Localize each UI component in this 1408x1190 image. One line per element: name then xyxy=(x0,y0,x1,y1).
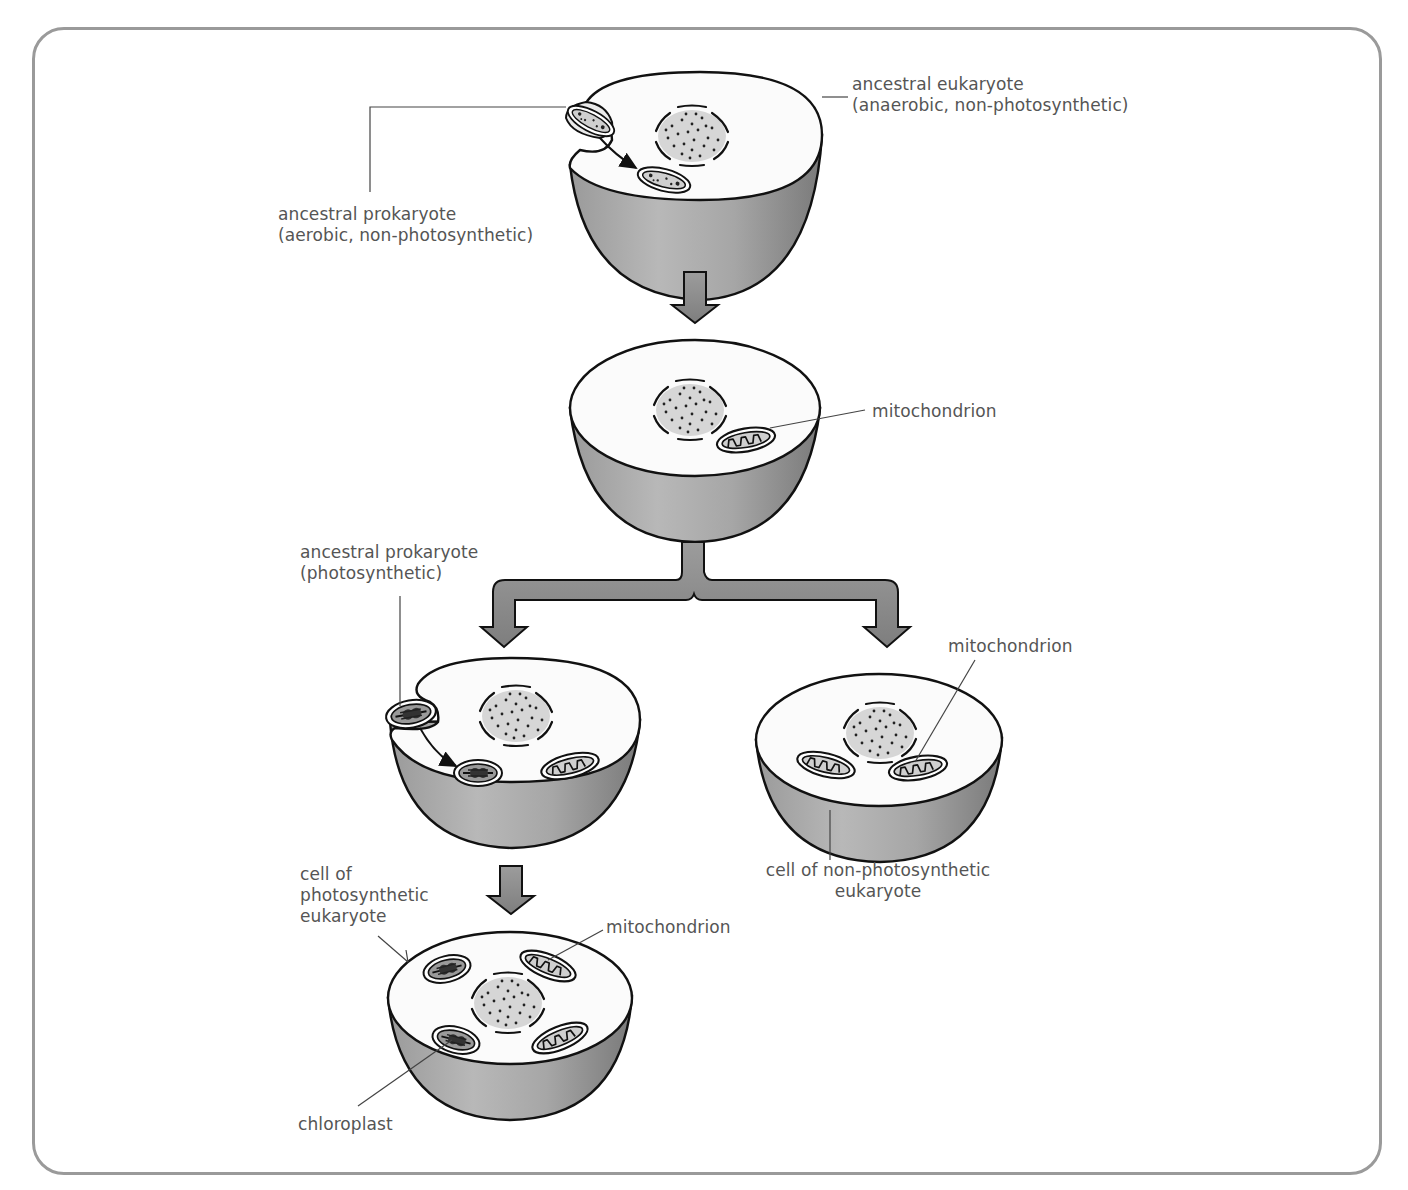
label-ancestral-prokaryote-photosynthetic: ancestral prokaryote (photosynthetic) xyxy=(300,542,478,584)
cell-eukaryote-engulfing-photosynthetic-prokaryote xyxy=(384,658,640,848)
label-line: mitochondrion xyxy=(606,917,731,938)
engulfed-chloroplast xyxy=(454,760,502,786)
label-line: (aerobic, non-photosynthetic) xyxy=(278,225,533,246)
label-mitochondrion-nonphoto: mitochondrion xyxy=(948,636,1073,657)
leader-aerobic-prokaryote xyxy=(370,107,566,192)
cell-non-photosynthetic-eukaryote xyxy=(756,674,1002,862)
label-line: (photosynthetic) xyxy=(300,563,478,584)
label-line: eukaryote xyxy=(758,881,998,902)
label-line: mitochondrion xyxy=(948,636,1073,657)
label-line: chloroplast xyxy=(298,1114,393,1135)
label-line: cell of xyxy=(300,864,429,885)
label-line: cell of non-photosynthetic xyxy=(758,860,998,881)
cell-ancestral-eukaryote xyxy=(563,72,822,300)
label-cell-nonphoto: cell of non-photosynthetic eukaryote xyxy=(758,860,998,902)
label-line: eukaryote xyxy=(300,906,429,927)
label-line: mitochondrion xyxy=(872,401,997,422)
label-line: (anaerobic, non-photosynthetic) xyxy=(852,95,1129,116)
label-ancestral-prokaryote-aerobic: ancestral prokaryote (aerobic, non-photo… xyxy=(278,204,533,246)
endosymbiosis-diagram xyxy=(0,0,1408,1190)
label-line: ancestral prokaryote xyxy=(278,204,533,225)
label-mitochondrion-stage2: mitochondrion xyxy=(872,401,997,422)
label-line: ancestral eukaryote xyxy=(852,74,1129,95)
label-chloroplast: chloroplast xyxy=(298,1114,393,1135)
cell-photosynthetic-eukaryote xyxy=(388,932,632,1120)
label-mitochondrion-photo: mitochondrion xyxy=(606,917,731,938)
cell-eukaryote-with-mitochondrion xyxy=(570,340,820,542)
arrow-down-3 xyxy=(488,866,534,914)
leader-cell-photo-tail xyxy=(378,936,408,962)
arrow-split xyxy=(481,542,910,647)
label-cell-photo: cell of photosynthetic eukaryote xyxy=(300,864,429,927)
label-ancestral-eukaryote: ancestral eukaryote (anaerobic, non-phot… xyxy=(852,74,1129,116)
label-line: photosynthetic xyxy=(300,885,429,906)
label-line: ancestral prokaryote xyxy=(300,542,478,563)
